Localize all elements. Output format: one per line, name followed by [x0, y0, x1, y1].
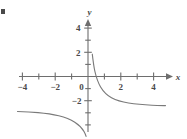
- x-ticklabel--4: −4: [18, 82, 28, 92]
- x-axis-arrow-icon: [166, 73, 173, 79]
- y-ticklabel--2: −2: [72, 96, 82, 106]
- graph-figure: −4 −2 0 2 4 4 2 −2 x y: [0, 0, 187, 139]
- x-tick-labels: −4 −2 0 2 4: [18, 82, 157, 92]
- curve-left-branch: [18, 112, 87, 137]
- y-ticklabel-2: 2: [76, 48, 81, 58]
- y-axis: [84, 19, 92, 132]
- x-ticklabel-0: 0: [79, 82, 84, 92]
- x-ticklabel-4: 4: [151, 82, 156, 92]
- scan-artifact-mark: [1, 9, 5, 14]
- y-tick-labels: 4 2 −2: [72, 23, 82, 106]
- function-curve-group: [18, 54, 166, 136]
- x-ticklabel-2: 2: [119, 82, 124, 92]
- curve-right-branch: [92, 54, 165, 105]
- y-ticklabel-4: 4: [76, 23, 81, 33]
- x-ticklabel--2: −2: [50, 82, 60, 92]
- y-axis-label: y: [87, 7, 93, 17]
- coordinate-plane-svg: −4 −2 0 2 4 4 2 −2 x y: [0, 0, 187, 139]
- y-axis-arrow-icon: [85, 19, 91, 26]
- x-axis-label: x: [175, 72, 181, 82]
